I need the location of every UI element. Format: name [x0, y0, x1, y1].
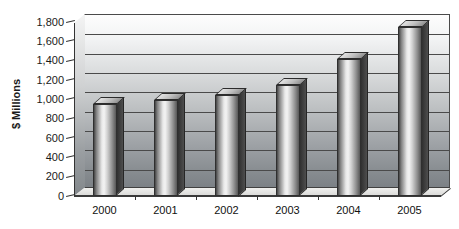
bar-front-face — [337, 59, 361, 196]
gridline — [84, 131, 449, 132]
x-category-label: 2001 — [141, 204, 191, 216]
bar — [398, 27, 422, 196]
y-tick-label: 1,400 — [18, 54, 64, 67]
x-category-tick — [318, 196, 319, 200]
y-tick-label: 400 — [18, 151, 64, 164]
bar-side-face — [360, 52, 368, 196]
bar-side-face — [299, 78, 307, 196]
gridline — [84, 54, 449, 55]
y-tick-label: 200 — [18, 170, 64, 183]
x-category-label: 2004 — [324, 204, 374, 216]
bar — [154, 100, 178, 196]
y-tick-label: 600 — [18, 132, 64, 145]
left-wall — [74, 14, 85, 196]
x-category-tick — [257, 196, 258, 200]
bar — [93, 104, 117, 196]
y-tick-label: 0 — [18, 190, 64, 203]
x-category-label: 2000 — [80, 204, 130, 216]
y-tick-label: 1,800 — [18, 16, 64, 29]
x-category-tick — [135, 196, 136, 200]
bar-side-face — [238, 87, 246, 196]
bar — [337, 59, 361, 196]
x-category-tick — [379, 196, 380, 200]
gridline — [84, 170, 449, 171]
y-tick-label: 1,600 — [18, 35, 64, 48]
plot-area — [84, 14, 450, 188]
gridline — [84, 73, 449, 74]
bar-front-face — [93, 104, 117, 196]
y-tick-label: 1,200 — [18, 74, 64, 87]
gridline — [84, 92, 449, 93]
bar-chart-3d: $ Millions 02004006008001,0001,2001,4001… — [0, 0, 459, 229]
bar-front-face — [276, 85, 300, 196]
gridline — [84, 34, 449, 35]
y-tick-label: 800 — [18, 112, 64, 125]
bar-front-face — [398, 27, 422, 196]
x-category-label: 2005 — [385, 204, 435, 216]
bar — [276, 85, 300, 196]
bar-side-face — [116, 97, 124, 196]
bar — [215, 95, 239, 197]
y-axis-line — [74, 23, 75, 196]
gridline — [84, 112, 449, 113]
bar-side-face — [177, 93, 185, 196]
x-category-tick — [196, 196, 197, 200]
bar-front-face — [154, 100, 178, 196]
bar-side-face — [421, 20, 429, 196]
gridline — [84, 150, 449, 151]
x-category-label: 2003 — [263, 204, 313, 216]
x-category-label: 2002 — [202, 204, 252, 216]
bar-front-face — [215, 95, 239, 197]
y-tick-label: 1,000 — [18, 93, 64, 106]
